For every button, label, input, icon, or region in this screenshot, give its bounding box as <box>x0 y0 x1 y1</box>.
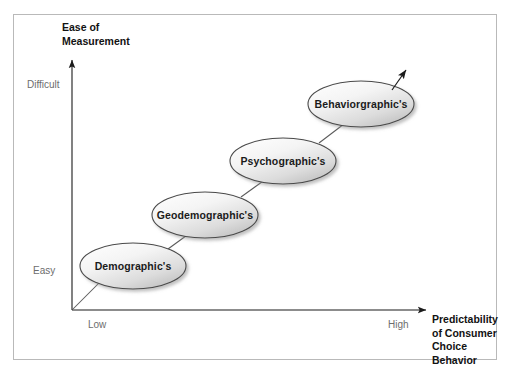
x-axis-tick-high: High <box>388 319 409 330</box>
y-axis-title: Ease of Measurement <box>62 21 130 48</box>
growth-arrow <box>392 70 406 90</box>
y-axis-tick-easy: Easy <box>33 265 55 276</box>
node-ellipse-behaviorgraphics[interactable] <box>308 81 414 127</box>
node-ellipse-geodemographics[interactable] <box>152 192 258 238</box>
diagram-canvas: Demographic's Geodemographic's Psychogra… <box>0 0 510 375</box>
connector-psycho-to-behaviorgraphics <box>319 124 344 143</box>
y-axis-tick-difficult: Difficult <box>27 79 60 90</box>
x-axis-title: Predictability of Consumer Choice Behavi… <box>432 313 510 367</box>
node-ellipse-psychographics[interactable] <box>230 138 336 184</box>
node-ellipse-demographics[interactable] <box>80 243 186 289</box>
x-axis-tick-low: Low <box>88 319 106 330</box>
node-shapes <box>80 81 414 289</box>
connector-origin-to-demographics <box>73 283 99 309</box>
